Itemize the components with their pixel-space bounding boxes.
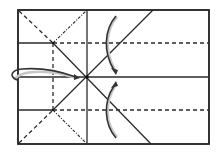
- fold-down-arrow-icon: [106, 16, 118, 75]
- top-left-diagonal-valley-fold: [19, 11, 53, 43]
- top-diagonal-mountain-fold: [53, 10, 87, 43]
- bottom-left-diagonal-valley-fold: [19, 110, 53, 143]
- origami-fold-diagram: [0, 0, 221, 155]
- center-point-dot: [85, 75, 89, 79]
- upper-intersection-dot: [52, 42, 54, 44]
- bottom-diagonal-mountain-fold: [53, 110, 87, 144]
- lower-intersection-dot: [52, 109, 54, 111]
- descending-diagonal-crease: [53, 43, 151, 144]
- fold-right-arrow-icon: [12, 69, 80, 80]
